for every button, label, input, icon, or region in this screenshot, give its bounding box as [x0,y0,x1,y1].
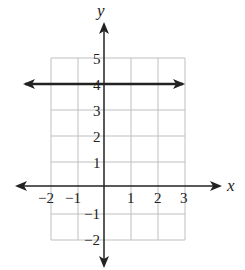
y-tick-label: 1 [93,155,101,171]
x-axis-label: x [226,176,235,195]
x-tick-label: −2 [38,190,54,206]
y-axis-label: y [95,1,105,20]
x-tick-label: 1 [127,190,135,206]
coordinate-plane: y x −2 −1 1 2 3 5 4 3 2 1 −1 −2 [0,0,245,270]
y-tick-label: 4 [93,77,101,93]
x-tick-label: 2 [154,190,162,206]
y-tick-label: −1 [84,206,100,222]
y-tick-label: −2 [84,232,100,248]
y-tick-label: 5 [93,51,101,67]
x-tick-label: −1 [65,190,81,206]
grid [51,58,185,240]
x-tick-label: 3 [180,190,188,206]
y-tick-label: 3 [93,103,101,119]
y-tick-label: 2 [93,129,101,145]
